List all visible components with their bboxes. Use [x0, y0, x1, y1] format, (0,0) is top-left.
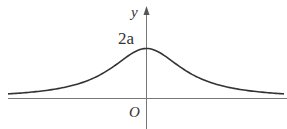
origin-label: O	[129, 104, 140, 120]
graph-canvas: y 2a O	[0, 0, 287, 129]
y-axis-label: y	[129, 4, 138, 20]
y-axis-arrow-icon	[144, 6, 150, 15]
peak-label: 2a	[118, 29, 135, 48]
